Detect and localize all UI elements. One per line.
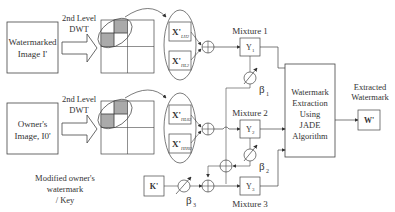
beta-3-sub: 3	[193, 202, 196, 208]
jade-line-3: Using	[300, 109, 321, 119]
beta-2-symbol: β	[259, 160, 265, 172]
mixture-3-title: Mixture 3	[232, 199, 268, 209]
watermarked-image-label-1: Watermarked	[8, 37, 57, 47]
sum-node-bottom	[202, 180, 214, 192]
gain-beta-1	[244, 68, 257, 84]
subband-hh02-sub: HH02	[180, 146, 193, 151]
output-w-symbol: W'	[364, 116, 374, 125]
owners-image-label-2: Image, I0'	[14, 131, 50, 141]
subband-lh2-sub: LH2	[180, 34, 190, 39]
subband-lh2-symbol: X'	[172, 27, 181, 37]
gain-beta-2	[244, 145, 257, 161]
mixture-1-title: Mixture 1	[232, 26, 268, 36]
beta-1-sub: 1	[266, 91, 269, 97]
key-symbol: K'	[150, 182, 158, 191]
key-label-2: watermark	[47, 184, 84, 194]
output-title-2: Watermark	[351, 92, 389, 102]
subband-hh02-symbol: X'	[172, 139, 181, 149]
sum-node-top	[202, 41, 214, 53]
jade-line-5: Algorithm	[292, 131, 328, 141]
beta-3-symbol: β	[186, 194, 192, 206]
dwt-grid-bottom	[93, 93, 154, 154]
dwt-grid-top	[93, 12, 154, 73]
dwt-label-bottom-2: DWT	[69, 105, 89, 115]
dwt-label-top-2: DWT	[69, 24, 89, 34]
key-label-1: Modified owner's	[35, 173, 95, 183]
watermarked-image-label-2: Image I'	[18, 49, 48, 59]
key-label-3: / Key	[56, 195, 75, 205]
beta-2-sub: 2	[266, 168, 269, 174]
dwt-arrow-top	[62, 34, 97, 62]
dwt-arrow-bottom	[62, 115, 97, 143]
subband-hl02-sub: HL02	[180, 117, 192, 122]
output-title-1: Extracted	[354, 82, 387, 92]
jade-line-4: JADE	[300, 120, 321, 130]
jade-line-2: Extraction	[292, 98, 328, 108]
subband-hl2-symbol: X'	[172, 56, 181, 66]
watermarked-image-box	[7, 22, 58, 73]
sum-node-lower	[220, 160, 232, 172]
sum-node-middle	[202, 123, 214, 135]
dwt-label-bottom-1: 2nd Level	[62, 94, 97, 104]
subband-hl2-sub: HL2	[180, 63, 190, 68]
watermark-extraction-diagram: Watermarked Image I' 2nd Level DWT X' LH…	[0, 0, 395, 212]
jade-line-1: Watermark	[291, 87, 329, 97]
gain-beta-3	[176, 177, 191, 194]
subband-hl02-symbol: X'	[172, 110, 181, 120]
mixture-2-title: Mixture 2	[232, 108, 268, 118]
owners-image-label-1: Owner's	[18, 119, 48, 129]
beta-1-symbol: β	[259, 83, 265, 95]
dwt-label-top-1: 2nd Level	[62, 13, 97, 23]
